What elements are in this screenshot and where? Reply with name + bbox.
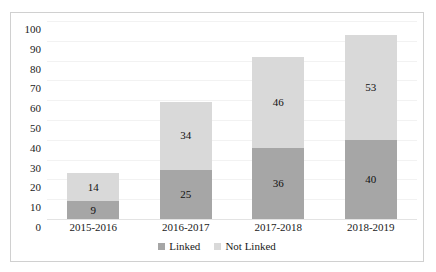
y-axis: 1009080706050403020100 — [11, 21, 45, 219]
bar-segment[interactable]: 40 — [345, 140, 397, 219]
y-axis-tick-label: 80 — [30, 63, 41, 74]
bar-value-label: 46 — [273, 97, 284, 108]
bar-segment[interactable]: 25 — [160, 170, 212, 220]
bar-segment[interactable]: 9 — [67, 201, 119, 219]
bar-value-label: 14 — [88, 182, 99, 193]
y-axis-tick-label: 30 — [30, 162, 41, 173]
y-axis-tick-label: 70 — [30, 83, 41, 94]
bar-segment[interactable]: 36 — [252, 148, 304, 219]
legend-item[interactable]: Not Linked — [214, 241, 275, 252]
x-axis-tick-label: 2016-2017 — [141, 222, 231, 233]
legend-swatch-icon — [158, 243, 165, 250]
bar-segment[interactable]: 53 — [345, 35, 397, 140]
bar-group[interactable]: 149 — [67, 173, 119, 219]
bar-group[interactable]: 3425 — [160, 102, 212, 219]
x-axis: 2015-20162016-20172017-20182018-2019 — [47, 222, 417, 240]
bar-value-label: 36 — [273, 178, 284, 189]
bar-group[interactable]: 4636 — [252, 57, 304, 219]
plot-area: 149342546365340 — [47, 21, 417, 219]
y-axis-tick-label: 90 — [30, 43, 41, 54]
legend-item[interactable]: Linked — [158, 241, 200, 252]
y-axis-tick-label: 10 — [30, 202, 41, 213]
chart-legend: LinkedNot Linked — [11, 241, 423, 252]
bar-value-label: 34 — [180, 130, 191, 141]
legend-swatch-icon — [214, 243, 221, 250]
bar-segment[interactable]: 46 — [252, 57, 304, 148]
gridline — [47, 21, 417, 22]
bar-group[interactable]: 5340 — [345, 35, 397, 219]
legend-label: Not Linked — [225, 241, 275, 252]
y-axis-tick-label: 0 — [36, 222, 42, 233]
bar-value-label: 25 — [180, 189, 191, 200]
y-axis-tick-label: 60 — [30, 103, 41, 114]
bar-segment[interactable]: 34 — [160, 102, 212, 169]
y-axis-tick-label: 50 — [30, 123, 41, 134]
y-axis-tick-label: 40 — [30, 142, 41, 153]
bar-value-label: 53 — [365, 82, 376, 93]
chart-container: 1009080706050403020100 149342546365340 2… — [10, 12, 424, 262]
bar-segment[interactable]: 14 — [67, 173, 119, 201]
x-axis-tick-label: 2018-2019 — [326, 222, 416, 233]
x-axis-tick-label: 2015-2016 — [48, 222, 138, 233]
y-axis-tick-label: 100 — [25, 24, 42, 35]
legend-label: Linked — [169, 241, 200, 252]
x-axis-tick-label: 2017-2018 — [233, 222, 323, 233]
bar-value-label: 40 — [365, 174, 376, 185]
bar-value-label: 9 — [91, 205, 97, 216]
gridline — [47, 219, 417, 220]
y-axis-tick-label: 20 — [30, 182, 41, 193]
